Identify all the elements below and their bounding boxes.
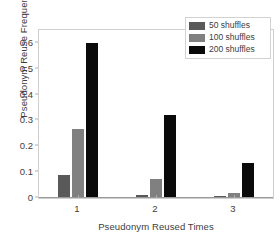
y-axis-tick-label: 0.6 — [20, 36, 33, 47]
bar — [242, 163, 254, 197]
legend-label: 200 shuffles — [209, 45, 255, 54]
bar — [86, 43, 98, 197]
bar-chart-figure: Pseudonym Reuse Frequency 00.10.20.30.40… — [0, 0, 280, 241]
y-axis-tick-label: 0.1 — [20, 166, 33, 177]
y-axis-tick-label: 0.3 — [20, 114, 33, 125]
bar — [72, 129, 84, 197]
x-axis-tick-mark — [156, 195, 157, 198]
y-axis-tick-labels: 00.10.20.30.40.50.6 — [0, 0, 36, 241]
legend-swatch-icon — [189, 34, 205, 42]
legend-swatch-icon — [189, 22, 205, 30]
bar — [214, 196, 226, 197]
legend-item: 200 shuffles — [189, 44, 267, 55]
bar — [136, 195, 148, 197]
chart-legend: 50 shuffles100 shuffles200 shuffles — [185, 17, 271, 59]
y-axis-tick-label: 0.2 — [20, 140, 33, 151]
x-axis-tick-label: 2 — [152, 203, 157, 214]
y-axis-tick-label: 0.5 — [20, 62, 33, 73]
x-axis-tick-mark — [78, 195, 79, 198]
y-axis-tick-label: 0.4 — [20, 88, 33, 99]
legend-label: 50 shuffles — [209, 21, 250, 30]
bar — [164, 115, 176, 197]
x-axis-tick-label: 1 — [74, 203, 79, 214]
bar — [58, 175, 70, 197]
x-axis-tick-label: 3 — [230, 203, 235, 214]
legend-label: 100 shuffles — [209, 33, 255, 42]
x-axis-tick-mark — [234, 195, 235, 198]
y-axis-tick-label: 0 — [28, 192, 33, 203]
x-axis-title: Pseudonym Reused Times — [38, 221, 274, 232]
legend-item: 100 shuffles — [189, 32, 267, 43]
legend-item: 50 shuffles — [189, 20, 267, 31]
legend-swatch-icon — [189, 46, 205, 54]
